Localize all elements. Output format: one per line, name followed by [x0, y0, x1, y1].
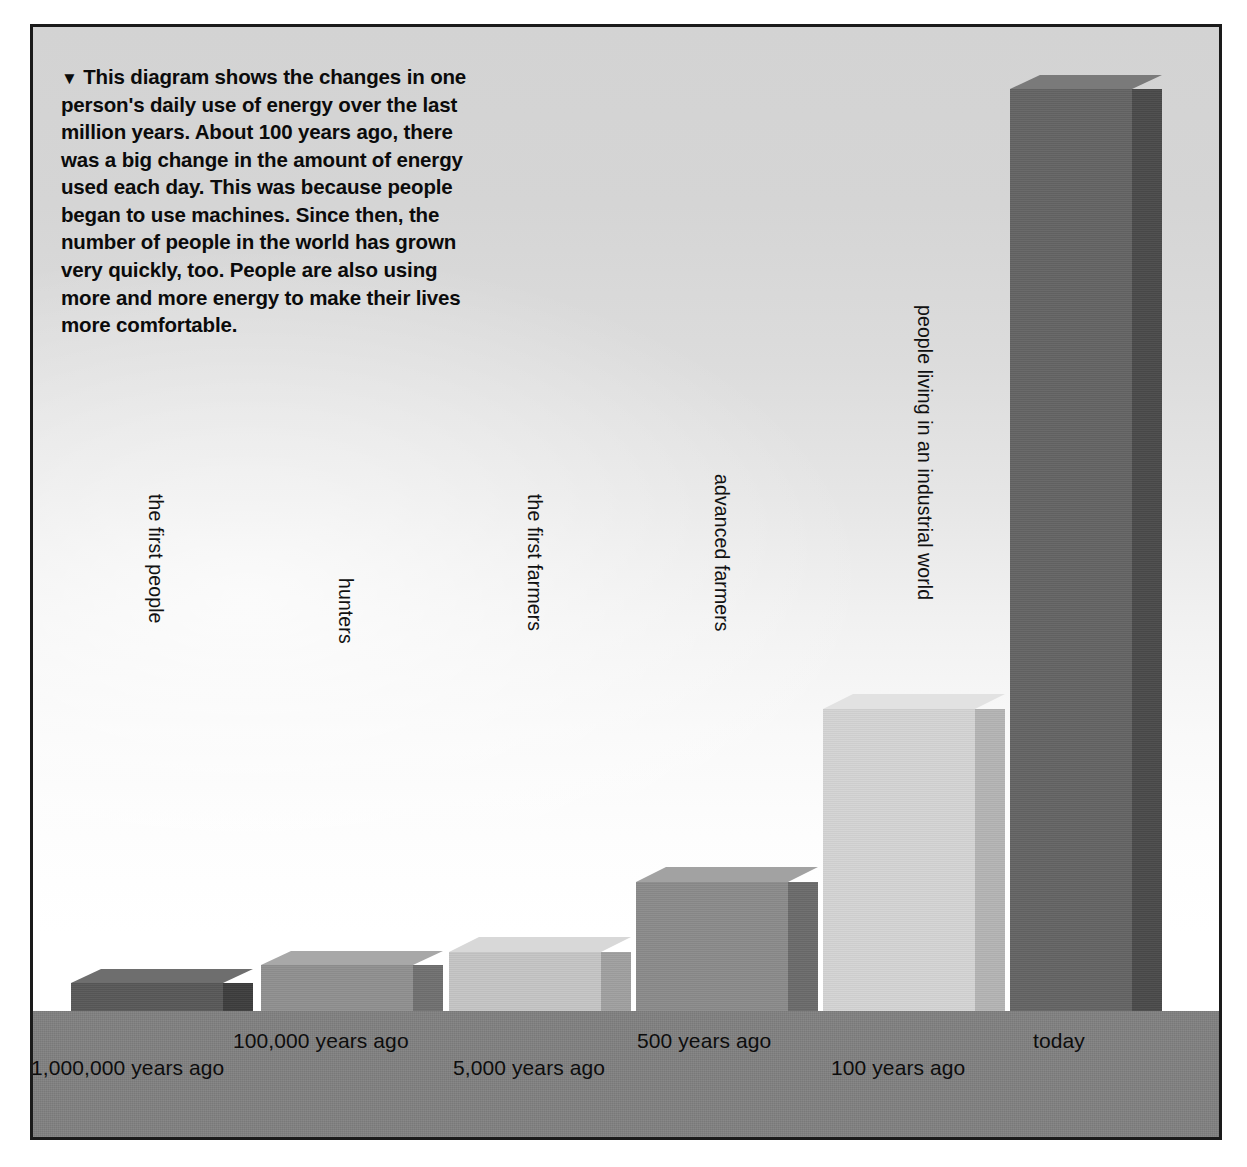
time-label-1000000-years-ago: 1,000,000 years ago [31, 1056, 224, 1080]
triangle-marker-icon: ▼ [61, 69, 78, 88]
bar-label-advanced-farmers: advanced farmers [710, 474, 733, 632]
bar-label-hunters: hunters [334, 578, 357, 644]
bar-top-face [449, 937, 631, 952]
bar-today[interactable] [1010, 89, 1132, 1011]
page-root: ▼ This diagram shows the changes in one … [0, 0, 1247, 1167]
bar-first-farmers[interactable] [449, 952, 601, 1011]
time-label-500-years-ago: 500 years ago [637, 1029, 771, 1053]
bar-side-face [601, 952, 631, 1011]
bar-first-people[interactable] [71, 983, 223, 1011]
time-label-100-years-ago: 100 years ago [831, 1056, 965, 1080]
figure-frame: ▼ This diagram shows the changes in one … [30, 24, 1222, 1140]
bar-front-face [261, 965, 413, 1011]
bar-side-face [975, 709, 1005, 1011]
caption-text: This diagram shows the changes in one pe… [61, 65, 466, 336]
bar-industrial[interactable] [823, 709, 975, 1011]
bar-front-face [823, 709, 975, 1011]
time-label-5000-years-ago: 5,000 years ago [453, 1056, 605, 1080]
bar-side-face [413, 965, 443, 1011]
figure-caption: ▼ This diagram shows the changes in one … [61, 63, 481, 339]
bar-top-face [636, 867, 818, 882]
bar-side-face [1132, 89, 1162, 1011]
bar-label-first-farmers: the first farmers [523, 494, 546, 631]
time-label-today: today [1033, 1029, 1085, 1053]
bar-hunters[interactable] [261, 965, 413, 1011]
bar-top-face [261, 951, 443, 965]
bar-front-face [449, 952, 601, 1011]
bar-advanced-farmers[interactable] [636, 882, 788, 1011]
bar-front-face [71, 983, 223, 1011]
bar-top-face [823, 694, 1005, 709]
bar-front-face [1010, 89, 1132, 1011]
bar-side-face [223, 983, 253, 1011]
bar-top-face [71, 969, 253, 983]
bar-label-first-people: the first people [144, 494, 167, 624]
bar-side-face [788, 882, 818, 1011]
bar-front-face [636, 882, 788, 1011]
time-label-100000-years-ago: 100,000 years ago [233, 1029, 409, 1053]
bar-label-industrial: people living in an industrial world [913, 305, 936, 600]
